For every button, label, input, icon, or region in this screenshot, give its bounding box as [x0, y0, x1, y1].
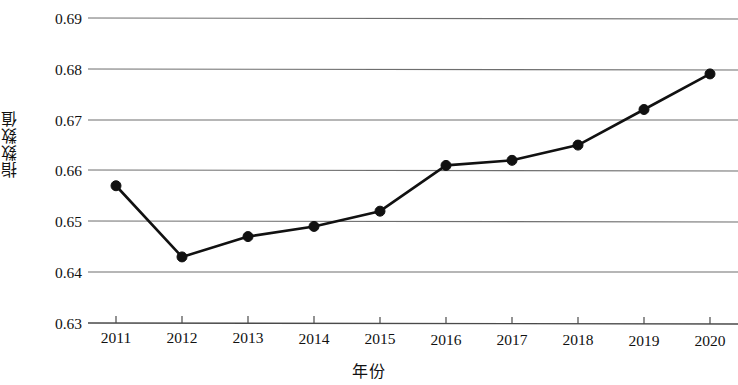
line-chart: 指数数值 0.69 0.68 0.67 0.66 0.65 0.64 0.63	[0, 0, 738, 385]
x-tick-label-2020: 2020	[678, 333, 738, 349]
x-tick-label-2016: 2016	[414, 332, 478, 348]
data-point-2011	[111, 181, 121, 191]
data-point-2017	[507, 155, 517, 165]
gridline-0.69	[88, 18, 738, 19]
plot-area	[0, 0, 738, 385]
x-tick-label-2015: 2015	[348, 331, 412, 347]
x-tick-label-2017: 2017	[480, 332, 544, 348]
gridline-0.66	[88, 170, 738, 171]
gridline-0.65	[88, 221, 738, 222]
x-axis-line	[88, 323, 738, 324]
series-markers	[111, 69, 715, 262]
x-axis-title: 年份	[0, 358, 738, 382]
data-point-2015	[375, 206, 385, 216]
data-point-2016	[441, 160, 451, 170]
x-tick-label-2011: 2011	[84, 330, 148, 346]
data-point-2013	[243, 232, 253, 242]
x-tick-label-2019: 2019	[612, 333, 676, 349]
x-tick-label-2013: 2013	[216, 330, 280, 346]
x-tick-label-2014: 2014	[282, 331, 346, 347]
data-point-2018	[573, 140, 583, 150]
data-point-2012	[177, 252, 187, 262]
data-point-2014	[309, 221, 319, 231]
series-line-index-value	[116, 74, 710, 257]
x-tick-label-2018: 2018	[546, 332, 610, 348]
x-tick-label-2012: 2012	[150, 330, 214, 346]
data-point-2019	[639, 105, 649, 115]
gridline-0.68	[88, 69, 738, 70]
data-point-2020	[705, 69, 715, 79]
gridlines	[88, 18, 738, 272]
